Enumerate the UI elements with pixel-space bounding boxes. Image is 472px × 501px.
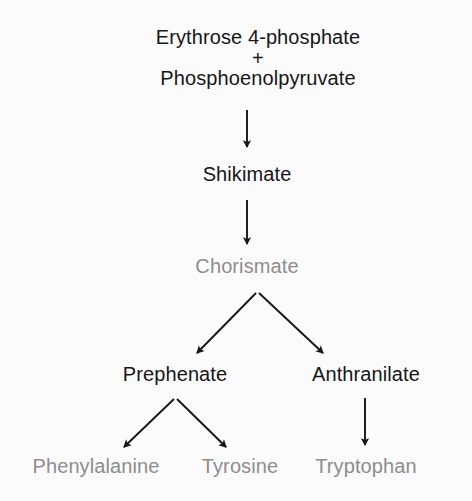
pathway-diagram: Erythrose 4-phosphate + Phosphoenolpyruv… xyxy=(0,0,472,501)
node-tyrosine: Tyrosine xyxy=(202,456,278,477)
arrow-prephenate-to-phenylalanine xyxy=(124,399,174,447)
node-anthranilate: Anthranilate xyxy=(312,364,420,385)
node-prephenate: Prephenate xyxy=(123,364,227,385)
node-chorismate: Chorismate xyxy=(195,256,298,277)
node-shikimate: Shikimate xyxy=(203,164,292,185)
substrate-group: Erythrose 4-phosphate + Phosphoenolpyruv… xyxy=(156,27,360,89)
node-tryptophan: Tryptophan xyxy=(315,456,416,477)
plus-sign: + xyxy=(156,48,360,68)
node-phosphoenolpyruvate: Phosphoenolpyruvate xyxy=(156,68,360,89)
arrow-chorismate-to-prephenate xyxy=(197,293,256,353)
arrow-chorismate-to-anthranilate xyxy=(259,293,323,353)
node-erythrose-4-phosphate: Erythrose 4-phosphate xyxy=(156,27,360,48)
arrow-prephenate-to-tyrosine xyxy=(177,399,226,447)
node-phenylalanine: Phenylalanine xyxy=(33,456,160,477)
